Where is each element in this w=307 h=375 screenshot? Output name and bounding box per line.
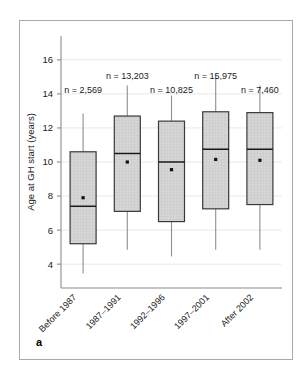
sample-size-label: n = 2,569: [64, 85, 102, 95]
y-axis-title: Age at GH start (years): [25, 113, 36, 211]
box-iqr: [159, 121, 185, 221]
mean-marker: [82, 196, 85, 199]
box-plot-item: [70, 113, 96, 273]
x-axis-label: 1987–1991: [84, 292, 123, 331]
box-series: [70, 75, 273, 273]
y-tick-label: 4: [48, 259, 53, 270]
box-plot-item: [114, 85, 140, 249]
panel-letter: a: [36, 336, 43, 348]
y-tick-label: 6: [48, 225, 53, 236]
box-plot-item: [159, 96, 185, 257]
x-axis-label: After 2002: [219, 292, 255, 328]
box-plot-item: [203, 75, 229, 250]
x-axis-label: 1992–1996: [128, 292, 167, 331]
y-tick-label: 10: [42, 156, 53, 167]
y-tick-label: 12: [42, 122, 53, 133]
sample-size-annotations: n = 2,569n = 13,203n = 10,825n = 15,975n…: [64, 71, 279, 95]
sample-size-label: n = 10,825: [150, 85, 193, 95]
x-axis-category-labels: Before 19871987–19911992–19961997–2001Af…: [37, 292, 256, 334]
boxplot-svg: 46810121416 n = 2,569n = 13,203n = 10,82…: [20, 21, 294, 361]
mean-marker: [170, 168, 173, 171]
box-iqr: [114, 116, 140, 211]
x-axis-label: 1997–2001: [172, 292, 211, 331]
y-axis-ticks: 46810121416: [42, 54, 61, 269]
sample-size-label: n = 7,460: [241, 85, 279, 95]
mean-marker: [126, 160, 129, 163]
mean-marker: [258, 159, 261, 162]
y-axis-title-text: Age at GH start (years): [25, 113, 36, 211]
figure-panel: 46810121416 n = 2,569n = 13,203n = 10,82…: [19, 20, 293, 360]
mean-marker: [214, 158, 217, 161]
boxplot-chart: 46810121416 n = 2,569n = 13,203n = 10,82…: [20, 21, 294, 361]
y-tick-label: 8: [48, 190, 53, 201]
panel-letter-text: a: [36, 336, 43, 348]
box-iqr: [247, 113, 273, 205]
sample-size-label: n = 13,203: [106, 71, 149, 81]
box-plot-item: [247, 85, 273, 249]
x-axis-label: Before 1987: [37, 292, 79, 334]
y-tick-label: 16: [42, 54, 53, 65]
sample-size-label: n = 15,975: [194, 71, 237, 81]
y-tick-label: 14: [42, 88, 53, 99]
